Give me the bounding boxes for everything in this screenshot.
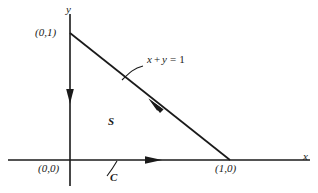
y-axis-label: y	[66, 4, 71, 15]
point-label-1-0: (1,0)	[215, 163, 236, 174]
figure-canvas: y x (0,1) (0,0) (1,0) S C x+y=1	[0, 0, 318, 193]
point-label-0-1: (0,1)	[35, 27, 56, 38]
equation-operator-equals: =	[170, 53, 176, 65]
x-axis-label: x	[303, 151, 308, 162]
curve-label-c: C	[110, 172, 117, 183]
y-axis-direction-arrow	[66, 89, 74, 104]
equation-leader-line	[122, 66, 143, 80]
region-label-s: S	[108, 116, 114, 127]
equation-operator-plus: +	[154, 53, 160, 65]
x-axis-direction-arrow	[145, 156, 162, 164]
equation-value-one: 1	[179, 53, 185, 65]
line-equation-label: x+y=1	[147, 54, 185, 65]
point-label-0-0: (0,0)	[38, 163, 59, 174]
equation-term-y: y	[162, 53, 167, 65]
equation-term-x: x	[147, 53, 152, 65]
